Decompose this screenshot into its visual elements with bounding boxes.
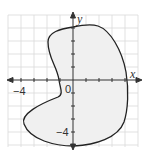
y-tick-label-neg4: −4 (56, 127, 69, 138)
x-tick-label-neg4: −4 (13, 86, 26, 97)
origin-label: 0 (65, 84, 71, 95)
coordinate-graph (0, 0, 146, 155)
x-axis-label: x (130, 68, 135, 80)
closed-region (23, 25, 127, 146)
y-axis-label: y (77, 13, 82, 25)
